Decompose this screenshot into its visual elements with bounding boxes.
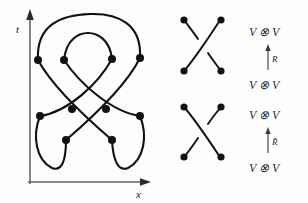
negative-crossing [180,103,224,160]
crossing-endpoint-dot [180,153,187,160]
vertex-dot [108,55,116,63]
vertex-dot [36,112,44,120]
outer-top-arc [38,14,140,60]
r-relation-arrowhead [265,44,270,51]
vertex-dot [62,136,70,144]
x-axis-label: x [135,188,141,200]
crossing-endpoint-dot [217,16,224,23]
r-check-relation-operator: Ř [271,137,278,147]
positive-crossing [180,16,224,74]
r-check-relation-arrowhead [265,127,270,134]
crossing-endpoint-dot [217,103,224,110]
vertex-dot [136,112,144,120]
lower-right-lobe [112,116,144,169]
r-relation-source: V ⊗ V [249,78,281,92]
r-check-matrix-relation: V ⊗ V Ř V ⊗ V [249,108,281,175]
vertex-dot [34,56,42,64]
vertex-dot [68,105,76,113]
crossing-endpoint-dot [180,16,187,23]
inner-top-arc [64,33,112,60]
crossing-endpoint-dot [217,67,224,74]
t-axis-arrowhead [26,9,34,20]
figure-canvas: t x [0,0,308,203]
r-matrix-relation: V ⊗ V R V ⊗ V [249,25,281,92]
x-axis-arrowhead [140,178,151,186]
knot-spacetime-diagram: t x [16,9,151,200]
knot-strands [36,14,144,169]
vertex-dot [60,56,68,64]
r-relation-operator: R [271,54,278,64]
knot-vertices [34,54,144,144]
r-check-relation-source: V ⊗ V [249,161,281,175]
vertex-dot [102,105,110,113]
r-check-relation-target: V ⊗ V [249,108,281,122]
crossing-endpoint-dot [180,103,187,110]
r-relation-target: V ⊗ V [249,25,281,39]
crossing-endpoint-dot [217,153,224,160]
crossing-endpoint-dot [180,67,187,74]
vertex-dot [136,54,144,62]
lower-left-lobe [36,116,66,169]
vertex-dot [108,136,116,144]
t-axis-label: t [16,23,20,35]
